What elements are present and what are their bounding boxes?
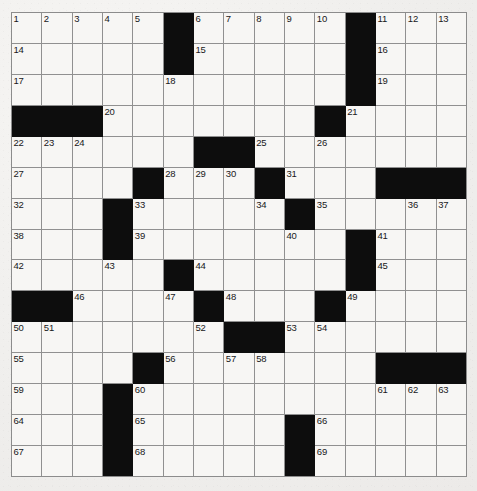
grid-cell[interactable] — [406, 106, 436, 137]
grid-cell[interactable]: 26 — [315, 137, 345, 168]
grid-cell[interactable] — [194, 446, 224, 477]
grid-cell[interactable]: 59 — [12, 384, 42, 415]
grid-cell[interactable] — [164, 415, 194, 446]
grid-cell[interactable] — [406, 44, 436, 75]
grid-cell[interactable] — [346, 137, 376, 168]
grid-cell[interactable]: 19 — [376, 75, 406, 106]
grid-cell[interactable]: 69 — [315, 446, 345, 477]
grid-cell[interactable]: 1 — [12, 13, 42, 44]
grid-cell[interactable]: 11 — [376, 13, 406, 44]
grid-cell[interactable]: 34 — [255, 199, 285, 230]
grid-cell[interactable] — [406, 230, 436, 261]
grid-cell[interactable] — [406, 291, 436, 322]
grid-cell[interactable] — [376, 291, 406, 322]
grid-cell[interactable]: 30 — [224, 168, 254, 199]
grid-cell[interactable] — [224, 446, 254, 477]
grid-cell[interactable] — [437, 291, 467, 322]
grid-cell[interactable] — [42, 168, 72, 199]
grid-cell[interactable]: 66 — [315, 415, 345, 446]
grid-cell[interactable] — [164, 322, 194, 353]
grid-cell[interactable] — [42, 446, 72, 477]
grid-cell[interactable]: 8 — [255, 13, 285, 44]
grid-cell[interactable]: 57 — [224, 353, 254, 384]
grid-cell[interactable]: 25 — [255, 137, 285, 168]
grid-cell[interactable] — [194, 353, 224, 384]
grid-cell[interactable] — [194, 75, 224, 106]
grid-cell[interactable] — [194, 415, 224, 446]
grid-cell[interactable]: 12 — [406, 13, 436, 44]
grid-cell[interactable] — [437, 137, 467, 168]
grid-cell[interactable] — [315, 384, 345, 415]
grid-cell[interactable] — [194, 106, 224, 137]
grid-cell[interactable]: 62 — [406, 384, 436, 415]
grid-cell[interactable]: 44 — [194, 260, 224, 291]
grid-cell[interactable] — [42, 75, 72, 106]
grid-cell[interactable] — [42, 384, 72, 415]
grid-cell[interactable]: 43 — [103, 260, 133, 291]
grid-cell[interactable] — [376, 322, 406, 353]
grid-cell[interactable] — [133, 291, 163, 322]
grid-cell[interactable] — [437, 322, 467, 353]
grid-cell[interactable]: 10 — [315, 13, 345, 44]
grid-cell[interactable]: 45 — [376, 260, 406, 291]
grid-cell[interactable]: 18 — [164, 75, 194, 106]
grid-cell[interactable] — [285, 75, 315, 106]
grid-cell[interactable] — [103, 168, 133, 199]
grid-cell[interactable]: 46 — [73, 291, 103, 322]
grid-cell[interactable] — [437, 106, 467, 137]
grid-cell[interactable] — [255, 415, 285, 446]
grid-cell[interactable] — [133, 137, 163, 168]
grid-cell[interactable]: 15 — [194, 44, 224, 75]
grid-cell[interactable]: 38 — [12, 230, 42, 261]
grid-cell[interactable] — [194, 230, 224, 261]
grid-cell[interactable] — [73, 230, 103, 261]
grid-cell[interactable] — [73, 168, 103, 199]
grid-cell[interactable] — [133, 106, 163, 137]
grid-cell[interactable] — [103, 75, 133, 106]
grid-cell[interactable] — [164, 137, 194, 168]
grid-cell[interactable] — [255, 260, 285, 291]
grid-cell[interactable] — [376, 415, 406, 446]
grid-cell[interactable] — [376, 106, 406, 137]
grid-cell[interactable]: 65 — [133, 415, 163, 446]
grid-cell[interactable] — [285, 353, 315, 384]
grid-cell[interactable] — [42, 44, 72, 75]
grid-cell[interactable] — [285, 384, 315, 415]
grid-cell[interactable]: 51 — [42, 322, 72, 353]
grid-cell[interactable]: 49 — [346, 291, 376, 322]
grid-cell[interactable] — [42, 353, 72, 384]
grid-cell[interactable]: 36 — [406, 199, 436, 230]
grid-cell[interactable]: 39 — [133, 230, 163, 261]
grid-cell[interactable]: 3 — [73, 13, 103, 44]
grid-cell[interactable] — [42, 415, 72, 446]
grid-cell[interactable]: 29 — [194, 168, 224, 199]
grid-cell[interactable]: 17 — [12, 75, 42, 106]
grid-cell[interactable] — [164, 199, 194, 230]
grid-cell[interactable] — [315, 230, 345, 261]
grid-cell[interactable]: 48 — [224, 291, 254, 322]
grid-cell[interactable]: 16 — [376, 44, 406, 75]
grid-cell[interactable] — [42, 260, 72, 291]
grid-cell[interactable]: 67 — [12, 446, 42, 477]
grid-cell[interactable] — [73, 75, 103, 106]
grid-cell[interactable] — [255, 75, 285, 106]
grid-cell[interactable] — [133, 75, 163, 106]
grid-cell[interactable]: 47 — [164, 291, 194, 322]
grid-cell[interactable] — [315, 75, 345, 106]
grid-cell[interactable] — [346, 446, 376, 477]
grid-cell[interactable] — [255, 44, 285, 75]
grid-cell[interactable] — [406, 75, 436, 106]
grid-cell[interactable] — [437, 260, 467, 291]
grid-cell[interactable] — [315, 260, 345, 291]
grid-cell[interactable] — [437, 44, 467, 75]
grid-cell[interactable] — [164, 230, 194, 261]
grid-cell[interactable] — [285, 44, 315, 75]
grid-cell[interactable]: 35 — [315, 199, 345, 230]
grid-cell[interactable] — [346, 322, 376, 353]
grid-cell[interactable] — [437, 230, 467, 261]
grid-cell[interactable] — [164, 384, 194, 415]
grid-cell[interactable] — [194, 199, 224, 230]
grid-cell[interactable]: 41 — [376, 230, 406, 261]
grid-cell[interactable] — [255, 384, 285, 415]
grid-cell[interactable]: 40 — [285, 230, 315, 261]
